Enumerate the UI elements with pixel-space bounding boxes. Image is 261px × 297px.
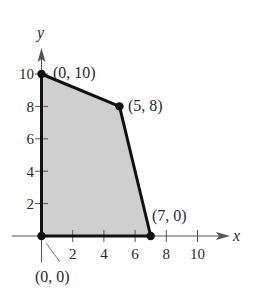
y-tick-label-2: 2 [27, 196, 35, 212]
y-tick-label-6: 6 [27, 131, 35, 147]
x-axis-label: x [232, 227, 240, 244]
y-tick-label-4: 4 [27, 164, 35, 180]
x-tick-label-6: 6 [131, 246, 139, 262]
y-axis-label: y [35, 24, 45, 42]
origin-label-leader [46, 243, 60, 262]
x-tick-label-10: 10 [190, 246, 205, 262]
x-tick-label-2: 2 [69, 246, 77, 262]
vertex-0-0 [37, 232, 45, 240]
x-tick-label-4: 4 [100, 246, 108, 262]
vertex-label-7-0: (7, 0) [152, 207, 187, 225]
vertex-7-0 [147, 232, 155, 240]
vertex-label-0-10: (0, 10) [53, 64, 96, 82]
y-tick-label-10: 10 [19, 66, 34, 82]
chart-canvas: y x 2 4 6 8 10 2 4 6 8 10 (0, 10) (5, 8)… [0, 0, 261, 297]
vertex-label-0-0: (0, 0) [35, 268, 70, 286]
x-tick-label-8: 8 [163, 246, 171, 262]
vertex-label-5-8: (5, 8) [128, 97, 163, 115]
vertex-0-10 [37, 70, 45, 78]
vertex-5-8 [115, 102, 123, 110]
y-tick-label-8: 8 [27, 99, 35, 115]
